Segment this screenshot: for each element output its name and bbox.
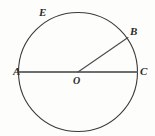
point-label-c: C (140, 66, 147, 77)
point-label-e: E (39, 7, 46, 18)
circle-diagram-canvas (0, 0, 155, 136)
geometry-figure: A B C E O (0, 0, 155, 136)
point-label-b: B (130, 26, 137, 37)
point-label-a: A (13, 66, 20, 77)
point-label-o: O (73, 76, 80, 86)
radius-ob-line (78, 38, 128, 73)
